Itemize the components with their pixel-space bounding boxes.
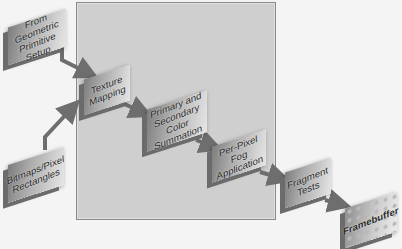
arrow-texture-to-colorsum xyxy=(120,102,142,112)
arrow-colorsum-to-fog xyxy=(196,140,212,146)
arrow-fragment-to-framebuffer xyxy=(325,200,340,204)
arrow-bitmaps-to-texture xyxy=(45,108,72,150)
arrow-fog-to-fragment xyxy=(260,172,280,178)
arrow-geometric-to-texture xyxy=(62,45,88,73)
stage-label: Framebuffer xyxy=(343,204,399,237)
